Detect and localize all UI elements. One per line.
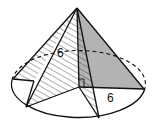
- slant-label: 6: [57, 46, 64, 60]
- radius-label: 6: [107, 91, 114, 105]
- cone-diagram: 6 6: [0, 0, 152, 129]
